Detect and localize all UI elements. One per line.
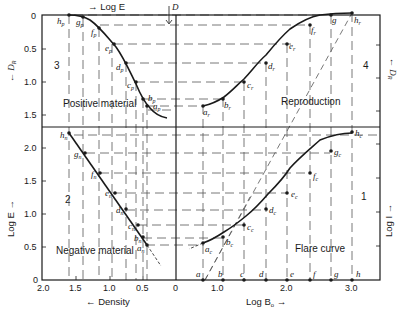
svg-text:br: br xyxy=(224,100,232,111)
tone-reproduction-diagram: hp gp fp ep dp cp bp ap ar br cr dr er f… xyxy=(0,0,399,311)
svg-text:cp: cp xyxy=(127,80,134,91)
svg-text:Log I →: Log I → xyxy=(383,204,394,237)
svg-text:2: 2 xyxy=(65,194,71,205)
svg-text:← DR: ← DR xyxy=(6,60,17,82)
svg-text:← Density: ← Density xyxy=(86,296,130,307)
svg-text:1.0: 1.0 xyxy=(24,77,37,87)
curve-extensions xyxy=(147,243,203,266)
svg-text:fp: fp xyxy=(91,27,97,38)
svg-text:ac: ac xyxy=(205,244,213,255)
svg-text:D: D xyxy=(171,2,179,12)
svg-text:dr: dr xyxy=(268,61,276,72)
svg-text:0.5: 0.5 xyxy=(136,283,149,293)
svg-text:2.0: 2.0 xyxy=(37,283,50,293)
svg-text:0.5: 0.5 xyxy=(24,44,37,54)
svg-text:1.5: 1.5 xyxy=(69,283,82,293)
svg-text:1.0: 1.0 xyxy=(24,209,37,219)
svg-text:0: 0 xyxy=(31,11,36,21)
svg-text:3.0: 3.0 xyxy=(345,283,358,293)
svg-text:gc: gc xyxy=(334,147,342,158)
svg-text:dc: dc xyxy=(269,205,277,216)
svg-text:1.5: 1.5 xyxy=(24,110,37,120)
svg-text:Log E →: Log E → xyxy=(5,200,16,237)
svg-text:dn: dn xyxy=(116,205,124,216)
svg-text:er: er xyxy=(289,41,296,52)
quadrant-4-title: Reproduction xyxy=(281,96,340,107)
flare-point-labels: ac bc cc dc ec fc gc hc xyxy=(205,128,363,255)
quadrant-labels: 3 Positive material 4 Reproduction 2 Neg… xyxy=(54,60,369,256)
reproduction-curve xyxy=(203,13,352,106)
bottom-point-labels: a b c d e f g h xyxy=(196,269,361,279)
svg-text:en: en xyxy=(105,188,112,199)
lower-left-ticks: 2.0 1.5 1.0 0.5 0 xyxy=(24,143,38,285)
svg-text:0: 0 xyxy=(173,283,178,293)
svg-text:hr: hr xyxy=(354,15,362,26)
quadrant-1-title: Flare curve xyxy=(295,243,345,254)
svg-text:2.0: 2.0 xyxy=(280,283,293,293)
svg-text:ar: ar xyxy=(203,107,211,118)
svg-text:dp: dp xyxy=(116,62,124,73)
svg-text:2.0: 2.0 xyxy=(24,143,37,153)
svg-text:1.5: 1.5 xyxy=(24,176,37,186)
svg-text:← DR: ← DR xyxy=(387,58,398,80)
svg-text:0.5: 0.5 xyxy=(24,242,37,252)
svg-text:f: f xyxy=(313,269,317,279)
svg-text:h: h xyxy=(356,269,361,279)
svg-text:fr: fr xyxy=(311,25,317,36)
negative-point-labels: hn gn fn en dn cn bn an xyxy=(60,130,145,254)
svg-text:d: d xyxy=(259,269,264,279)
svg-text:1.0: 1.0 xyxy=(211,283,224,293)
quadrant-2-title: Negative material xyxy=(56,245,134,256)
svg-text:→ Log E: → Log E xyxy=(88,1,125,12)
svg-text:cr: cr xyxy=(247,80,254,91)
svg-text:hn: hn xyxy=(60,130,68,141)
svg-text:e: e xyxy=(290,269,294,279)
right-arrow-icon: → xyxy=(88,1,100,12)
svg-text:c: c xyxy=(240,269,244,279)
svg-text:bc: bc xyxy=(226,237,234,248)
svg-text:3: 3 xyxy=(54,60,60,71)
svg-text:1.0: 1.0 xyxy=(103,283,116,293)
svg-text:cc: cc xyxy=(247,222,254,233)
quadrant-3-title: Positive material xyxy=(63,98,136,109)
upper-left-ticks: 0 0.5 1.0 1.5 xyxy=(24,11,37,120)
svg-text:ep: ep xyxy=(105,43,112,54)
svg-text:Log Bo →: Log Bo → xyxy=(246,296,286,308)
svg-text:1: 1 xyxy=(361,191,367,202)
svg-text:cn: cn xyxy=(128,221,135,232)
svg-text:g: g xyxy=(332,15,337,25)
svg-text:ec: ec xyxy=(291,189,298,200)
logbo-ticks: 1.0 2.0 3.0 xyxy=(211,283,358,293)
svg-text:hc: hc xyxy=(355,128,363,139)
svg-text:fc: fc xyxy=(313,171,319,182)
svg-text:a: a xyxy=(196,269,201,279)
svg-text:hp: hp xyxy=(57,16,65,27)
svg-text:b: b xyxy=(218,269,223,279)
svg-text:g: g xyxy=(334,269,339,279)
svg-text:4: 4 xyxy=(363,60,369,71)
flare-curve xyxy=(203,133,352,243)
density-ticks: 2.0 1.5 1.0 0.5 0 xyxy=(37,283,178,293)
svg-text:ap: ap xyxy=(153,101,161,112)
